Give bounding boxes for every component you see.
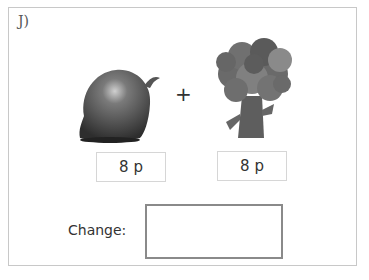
broccoli-price-box: 8 p (217, 151, 287, 181)
plus-sign: + (175, 84, 192, 104)
change-label: Change: (68, 222, 126, 238)
onion-icon (74, 64, 164, 144)
onion-price-box: 8 p (96, 152, 166, 182)
change-answer-box[interactable] (145, 204, 283, 259)
broccoli-icon (212, 34, 294, 142)
question-label: J) (18, 13, 29, 29)
